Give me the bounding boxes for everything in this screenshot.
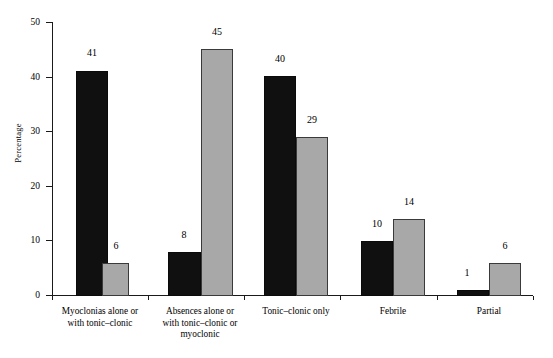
y-tick-50 (46, 22, 52, 23)
y-tick-label-50: 50 (6, 18, 40, 28)
x-tick-boundary-1 (148, 296, 149, 300)
bar-group-3-light (296, 137, 328, 296)
x-category-label-5: Partial (419, 306, 553, 318)
bar-group-3-dark (264, 76, 296, 296)
y-tick-10 (46, 240, 52, 241)
x-tick-boundary-3 (340, 296, 341, 300)
bar-value-group-3-dark: 40 (265, 54, 295, 64)
bar-value-group-5-light: 6 (490, 241, 520, 251)
bar-value-group-5-dark: 1 (452, 268, 482, 278)
bar-value-group-1-dark: 41 (77, 48, 107, 58)
bar-group-5-dark (457, 290, 489, 296)
bar-value-group-1-light: 6 (101, 241, 131, 251)
y-tick-20 (46, 186, 52, 187)
y-tick-40 (46, 77, 52, 78)
bar-group-2-dark (168, 252, 201, 296)
y-tick-label-20: 20 (6, 182, 40, 192)
bar-value-group-4-light: 14 (394, 197, 424, 207)
y-tick-label-30: 30 (6, 127, 40, 137)
x-tick-boundary-2 (244, 296, 245, 300)
y-tick-label-10: 10 (6, 236, 40, 246)
bar-value-group-3-light: 29 (297, 115, 327, 125)
y-axis-title: Percentage (13, 103, 23, 183)
bar-group-4-dark (361, 241, 393, 296)
y-tick-30 (46, 131, 52, 132)
bar-group-2-light (201, 49, 233, 296)
y-tick-label-0: 0 (6, 291, 40, 301)
y-tick-label-40: 40 (6, 73, 40, 83)
bar-value-group-2-light: 45 (202, 27, 232, 37)
bar-group-4-light (393, 219, 425, 296)
x-tick-boundary-4 (437, 296, 438, 300)
x-tick-boundary-0 (52, 296, 53, 300)
bar-group-1-light (102, 263, 129, 296)
bar-value-group-4-dark: 10 (362, 219, 392, 229)
x-tick-boundary-5 (533, 296, 534, 300)
y-axis-line (52, 22, 53, 296)
bar-chart: Percentage 0 10 20 30 40 50 41 6 8 45 40… (0, 0, 553, 358)
bar-value-group-2-dark: 8 (169, 230, 199, 240)
bar-group-5-light (489, 263, 521, 296)
